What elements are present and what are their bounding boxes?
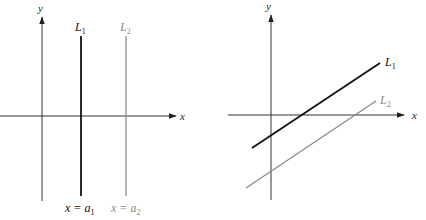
left-l1-equation: x = a1	[64, 201, 94, 217]
left-x-axis-label: x	[179, 110, 185, 122]
right-panel-sloped-lines: y x L1 L2	[228, 0, 417, 200]
right-line-l2	[246, 101, 376, 188]
left-l2-label: L2	[119, 20, 131, 36]
right-x-axis-label: x	[411, 109, 417, 121]
left-panel-vertical-lines: y x L1 L2 x = a1 x = a2	[0, 2, 185, 217]
right-l1-label: L1	[384, 55, 396, 71]
right-y-axis-label: y	[265, 0, 271, 12]
right-l2-label: L2	[379, 93, 391, 109]
left-l1-label: L1	[74, 20, 86, 36]
parallel-lines-diagram: y x L1 L2 x = a1 x = a2 y x L1 L2	[0, 0, 426, 220]
left-y-axis-label: y	[37, 2, 43, 14]
left-l2-equation: x = a2	[110, 201, 140, 217]
